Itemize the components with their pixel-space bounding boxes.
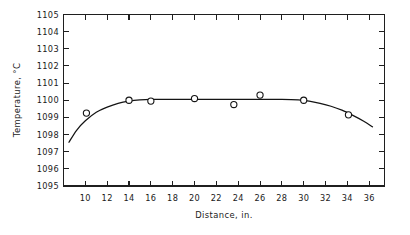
data-point-markers — [83, 92, 351, 118]
data-point-marker — [83, 110, 89, 116]
y-tick-label-1095: 1095 — [37, 181, 59, 191]
plot-frame — [64, 15, 385, 187]
y-axis-title: Temperature, °C — [12, 63, 22, 138]
x-tick-label-26: 26 — [254, 193, 265, 203]
y-tick-label-1102: 1102 — [37, 61, 59, 71]
x-tick-label-22: 22 — [211, 193, 222, 203]
data-point-marker — [301, 97, 307, 103]
axis-frame-rect — [64, 15, 385, 187]
x-tick-label-34: 34 — [342, 193, 353, 203]
y-axis-tick-labels: 1095109610971098109911001101110211031104… — [37, 10, 59, 192]
y-tick-label-1098: 1098 — [37, 130, 59, 140]
x-tick-label-20: 20 — [189, 193, 200, 203]
data-point-marker — [191, 95, 197, 101]
data-point-marker — [126, 97, 132, 103]
y-tick-label-1105: 1105 — [37, 10, 59, 20]
y-tick-label-1099: 1099 — [37, 112, 59, 122]
data-series-layer — [69, 92, 373, 142]
data-point-marker — [257, 92, 263, 98]
temperature-distance-plot: 1095109610971098109911001101110211031104… — [0, 0, 410, 235]
chart-figure: 1095109610971098109911001101110211031104… — [0, 0, 410, 235]
y-tick-label-1096: 1096 — [37, 164, 59, 174]
y-tick-label-1100: 1100 — [37, 95, 59, 105]
y-tick-label-1104: 1104 — [37, 27, 59, 37]
fitted-curve-line — [69, 99, 373, 142]
y-tick-label-1103: 1103 — [37, 44, 59, 54]
y-tick-label-1101: 1101 — [37, 78, 59, 88]
x-tick-label-12: 12 — [102, 193, 113, 203]
x-axis-tick-labels: 1012141618202224262830323436 — [80, 193, 375, 203]
x-tick-label-28: 28 — [276, 193, 287, 203]
y-tick-label-1097: 1097 — [37, 147, 59, 157]
data-point-marker — [148, 98, 154, 104]
x-tick-label-16: 16 — [145, 193, 156, 203]
x-tick-label-32: 32 — [320, 193, 331, 203]
x-tick-label-30: 30 — [298, 193, 309, 203]
x-tick-label-36: 36 — [364, 193, 375, 203]
y-axis-tick-marks — [64, 15, 385, 187]
data-point-marker — [345, 112, 351, 118]
x-tick-label-24: 24 — [233, 193, 244, 203]
x-tick-label-14: 14 — [123, 193, 134, 203]
x-tick-label-18: 18 — [167, 193, 178, 203]
data-point-marker — [231, 101, 237, 107]
x-axis-title: Distance, in. — [195, 210, 252, 220]
x-tick-label-10: 10 — [80, 193, 91, 203]
